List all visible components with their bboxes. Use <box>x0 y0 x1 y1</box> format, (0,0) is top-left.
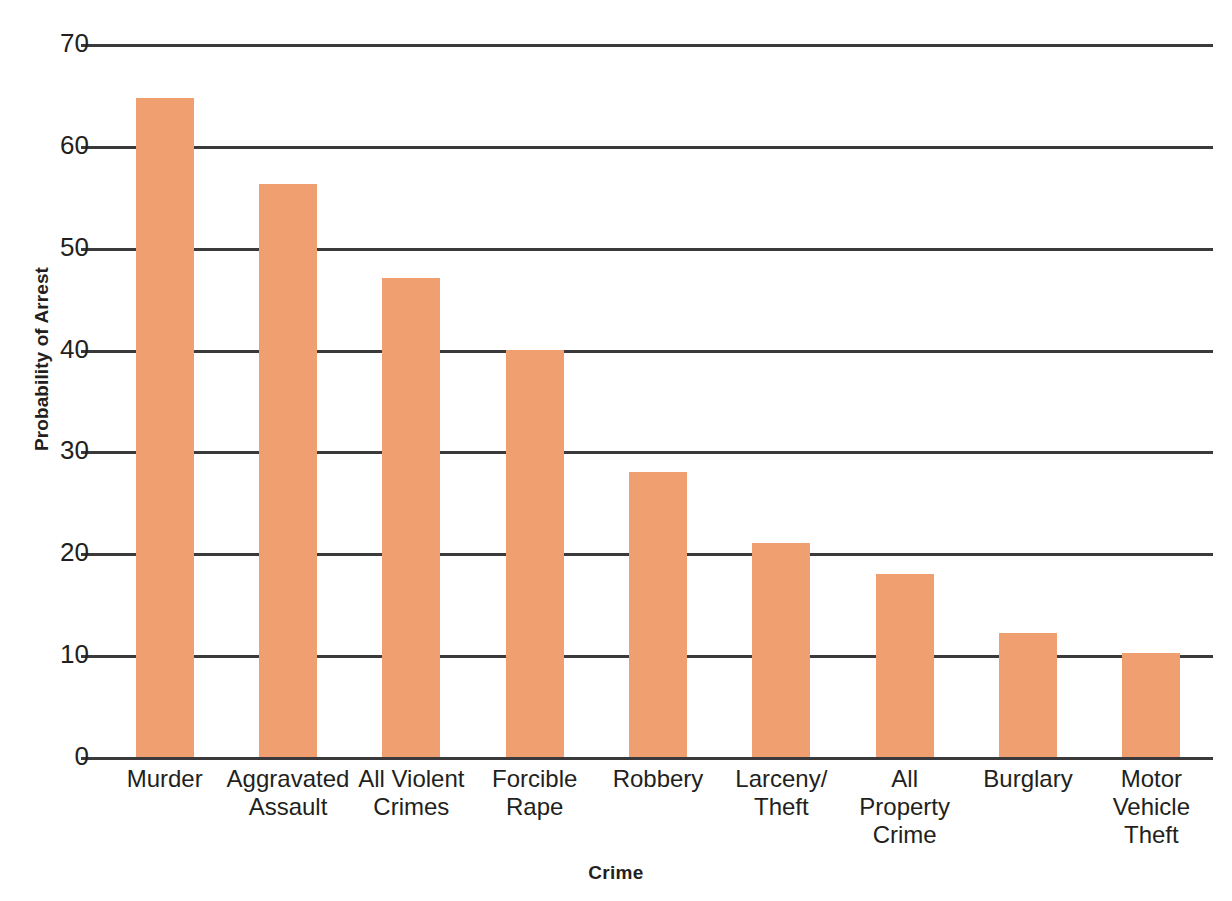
x-axis-tick-label-line: Vehicle <box>1090 793 1213 821</box>
bar <box>382 278 440 757</box>
x-axis-tick-label: MotorVehicleTheft <box>1090 765 1213 848</box>
y-axis-tick-label: 60 <box>29 132 89 158</box>
x-axis-tick-label-line: Theft <box>720 793 843 821</box>
x-axis-tick-label-line: Crime <box>843 821 966 849</box>
x-axis-tick-label-line: Burglary <box>966 765 1089 793</box>
x-axis-tick-label-line: Motor <box>1090 765 1213 793</box>
x-axis-tick-label: Burglary <box>966 765 1089 793</box>
x-axis-tick-label: Robbery <box>596 765 719 793</box>
x-axis-tick-label-line: Robbery <box>596 765 719 793</box>
bars-layer <box>103 44 1213 757</box>
bar <box>1122 653 1180 757</box>
x-axis-tick-labels: MurderAggravatedAssaultAll ViolentCrimes… <box>103 765 1213 860</box>
x-axis-tick-label-line: Crimes <box>350 793 473 821</box>
plot-area: 010203040506070 <box>103 44 1213 757</box>
y-axis-tick-label: 30 <box>29 437 89 463</box>
x-axis-tick-label-line: All Violent <box>350 765 473 793</box>
bar <box>876 574 934 757</box>
x-axis-tick-label: Larceny/Theft <box>720 765 843 821</box>
x-axis-tick-label: AllPropertyCrime <box>843 765 966 848</box>
y-axis-tick-label: 20 <box>29 539 89 565</box>
x-axis-tick-label: AggravatedAssault <box>226 765 349 821</box>
y-axis-tick-label: 40 <box>29 336 89 362</box>
x-axis-tick-label-line: Larceny/ <box>720 765 843 793</box>
bar <box>506 350 564 757</box>
x-axis-tick-label-line: Rape <box>473 793 596 821</box>
x-axis-tick-label-line: All <box>843 765 966 793</box>
x-axis-tick-label: All ViolentCrimes <box>350 765 473 821</box>
gridline <box>103 757 1213 760</box>
x-axis-title: Crime <box>0 862 1232 884</box>
x-axis-tick-label: Murder <box>103 765 226 793</box>
bar <box>259 184 317 757</box>
x-axis-tick-label-line: Murder <box>103 765 226 793</box>
y-axis-tick-label: 0 <box>29 743 89 769</box>
bar-chart: Probability of Arrest 010203040506070 Mu… <box>0 0 1232 901</box>
y-axis-tick-label: 10 <box>29 641 89 667</box>
y-axis-tick-label: 70 <box>29 30 89 56</box>
bar <box>136 98 194 757</box>
x-axis-tick-label-line: Forcible <box>473 765 596 793</box>
x-axis-tick-label-line: Assault <box>226 793 349 821</box>
x-axis-tick-label-line: Theft <box>1090 821 1213 849</box>
x-axis-tick-label-line: Property <box>843 793 966 821</box>
bar <box>752 543 810 757</box>
bar <box>629 472 687 757</box>
x-axis-tick-label: ForcibleRape <box>473 765 596 821</box>
bar <box>999 633 1057 757</box>
y-axis-tick-label: 50 <box>29 234 89 260</box>
x-axis-tick-label-line: Aggravated <box>226 765 349 793</box>
